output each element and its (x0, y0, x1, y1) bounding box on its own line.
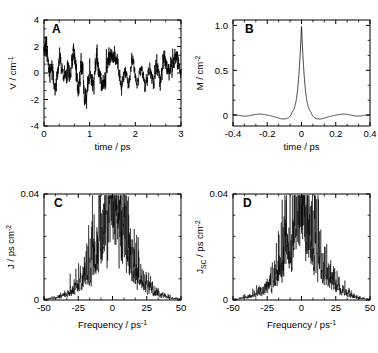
y-tick-label: 0.5 (215, 65, 228, 76)
panel-letter-d: D (243, 196, 252, 210)
y-axis-title: V / cm-1 (7, 56, 18, 89)
figure-container: 0123-4-2024Atime / psV / cm-1 -0.4-0.200… (0, 0, 378, 353)
panel-d: -50-250255000.04DFrequency / ps-1JSC / p… (189, 176, 378, 353)
x-tick-label: 50 (176, 302, 187, 313)
y-tick-label: -4 (31, 120, 39, 131)
spectral-density-trace (233, 195, 370, 299)
y-tick-label: 2 (34, 41, 39, 52)
y-tick-label: 0 (34, 294, 39, 305)
y-tick-label: -2 (31, 94, 39, 105)
x-tick-label: 3 (178, 128, 183, 139)
y-tick-label: 0 (223, 294, 228, 305)
y-tick-label: 1.0 (215, 20, 228, 31)
y-tick-label: 0.04 (210, 188, 229, 199)
x-tick-label: 0.2 (329, 128, 342, 139)
x-tick-label: 2 (133, 128, 138, 139)
panel-b-plot: -0.4-0.200.20.400.51.0Btime / psM / cm-2 (189, 0, 378, 176)
x-axis-title: time / ps (95, 141, 131, 152)
y-tick-label: 0 (223, 110, 228, 121)
panel-c-plot: -50-250255000.04CFrequency / ps-1J / ps … (0, 176, 189, 353)
panel-d-plot: -50-250255000.04DFrequency / ps-1JSC / p… (189, 176, 378, 353)
panel-letter-a: A (52, 22, 61, 36)
panel-a: 0123-4-2024Atime / psV / cm-1 (0, 0, 189, 176)
x-axis-title: Frequency / ps-1 (78, 319, 147, 330)
x-tick-label: 50 (365, 302, 376, 313)
x-tick-label: 0 (110, 302, 115, 313)
x-tick-label: 25 (330, 302, 341, 313)
x-axis-title: time / ps (284, 141, 320, 152)
panel-letter-b: B (245, 22, 254, 36)
x-tick-label: -25 (260, 302, 274, 313)
x-tick-label: -50 (37, 302, 51, 313)
spectral-density-trace (44, 195, 181, 299)
panel-letter-c: C (54, 196, 63, 210)
autocorrelation-trace (233, 27, 370, 119)
x-tick-label: -0.2 (259, 128, 275, 139)
y-tick-label: 0.04 (21, 188, 40, 199)
y-axis-title: M / cm-2 (194, 56, 205, 91)
x-tick-label: 0 (299, 128, 304, 139)
y-tick-label: 4 (34, 14, 39, 25)
y-axis-title: JSC / ps cm-2 (194, 220, 207, 274)
y-axis-title: J / ps cm-2 (5, 225, 16, 269)
x-tick-label: 0.4 (363, 128, 376, 139)
panel-b: -0.4-0.200.20.400.51.0Btime / psM / cm-2 (189, 0, 378, 176)
panel-c: -50-250255000.04CFrequency / ps-1J / ps … (0, 176, 189, 353)
x-tick-label: 1 (87, 128, 92, 139)
x-axis-title: Frequency / ps-1 (267, 319, 336, 330)
x-tick-label: -0.4 (225, 128, 241, 139)
signal-trace (44, 36, 181, 108)
x-tick-label: 25 (141, 302, 152, 313)
x-tick-label: -25 (71, 302, 85, 313)
x-tick-label: 0 (299, 302, 304, 313)
y-tick-label: 0 (34, 67, 39, 78)
x-tick-label: 0 (41, 128, 46, 139)
x-tick-label: -50 (226, 302, 240, 313)
panel-a-plot: 0123-4-2024Atime / psV / cm-1 (0, 0, 189, 176)
